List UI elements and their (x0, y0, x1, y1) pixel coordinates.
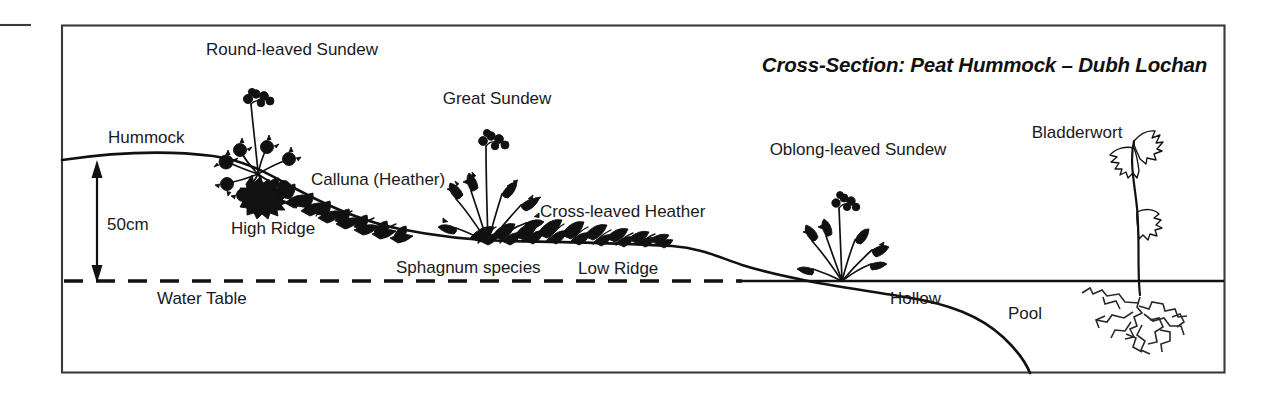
label-water-table: Water Table (157, 289, 247, 308)
label-round-leaved-sundew: Round-leaved Sundew (206, 40, 379, 59)
cross-section-diagram: Cross-Section: Peat Hummock – Dubh Locha… (0, 0, 1268, 393)
figure-title: Cross-Section: Peat Hummock – Dubh Locha… (762, 53, 1207, 76)
label-pool: Pool (1008, 304, 1042, 323)
label-oblong-leaved-sundew: Oblong-leaved Sundew (770, 140, 947, 159)
diagram-frame (62, 26, 1225, 373)
scale-bar-label: 50cm (107, 215, 149, 234)
label-hollow: Hollow (890, 289, 942, 308)
label-bladderwort: Bladderwort (1032, 123, 1123, 142)
label-cross-leaved-heather: Cross-leaved Heather (540, 202, 706, 221)
scale-bar-50cm: 50cm (92, 160, 149, 283)
bladderwort-plant (1082, 131, 1187, 354)
cross-leaved-heather-clump (470, 220, 673, 248)
label-sphagnum-species: Sphagnum species (396, 258, 541, 277)
bladderwort-root-tangle (1082, 288, 1187, 354)
great-sundew-plant (438, 129, 544, 243)
label-low-ridge: Low Ridge (578, 259, 658, 278)
label-high-ridge: High Ridge (231, 219, 315, 238)
scale-arrowhead-up (92, 160, 103, 178)
oblong-leaved-sundew-plant (797, 192, 889, 281)
label-hummock: Hummock (108, 128, 185, 147)
label-calluna-heather: Calluna (Heather) (311, 170, 445, 189)
label-great-sundew: Great Sundew (443, 89, 552, 108)
peat-hummock-cross-section-figure: Cross-Section: Peat Hummock – Dubh Locha… (0, 0, 1268, 393)
